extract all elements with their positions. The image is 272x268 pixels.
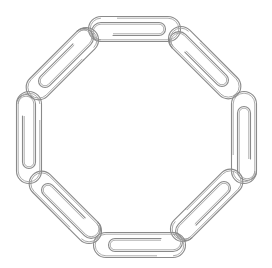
paperclip-top-right	[163, 21, 246, 104]
paperclip-ring-svg	[0, 0, 272, 268]
paperclip-top	[89, 17, 181, 42]
paperclip-left	[17, 92, 42, 184]
paperclip-ring-illustration: Ring of linked paperclips	[0, 0, 272, 268]
paperclip-bottom	[93, 233, 185, 258]
